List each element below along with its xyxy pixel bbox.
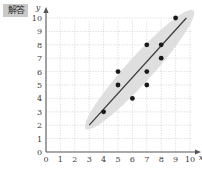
chart-svg: 012345678910 012345678910 xy	[0, 0, 202, 173]
y-tick-label: 5	[37, 81, 42, 90]
y-tick-label: 10	[32, 14, 42, 23]
y-tick-label: 8	[37, 41, 42, 50]
y-tick-label: 0	[37, 148, 42, 157]
x-tick-label: 2	[72, 155, 77, 164]
x-axis-label: x	[199, 153, 202, 162]
y-tick-label: 9	[37, 27, 42, 36]
data-point	[159, 56, 164, 61]
x-tick-label: 1	[58, 155, 63, 164]
data-point	[116, 69, 121, 74]
x-tick-label: 5	[115, 155, 120, 164]
x-tick-label: 4	[101, 155, 106, 164]
data-point	[130, 96, 135, 101]
y-tick-label: 1	[37, 135, 42, 144]
data-point	[101, 109, 106, 114]
x-tick-label: 3	[87, 155, 92, 164]
data-point	[173, 16, 178, 21]
data-point	[144, 42, 149, 47]
scatter-chart-figure: 012345678910 012345678910 xy	[0, 0, 202, 173]
data-point	[144, 83, 149, 88]
data-point	[116, 83, 121, 88]
x-tick-label: 10	[185, 155, 195, 164]
x-tick-label: 8	[159, 155, 164, 164]
x-tick-label: 9	[173, 155, 178, 164]
data-point	[159, 42, 164, 47]
x-tick-label: 0	[43, 155, 48, 164]
x-axis-tick-labels: 012345678910	[43, 155, 195, 164]
data-point	[144, 69, 149, 74]
y-tick-label: 4	[37, 94, 42, 103]
x-tick-label: 7	[144, 155, 149, 164]
chart-root: 解答 012345678910 012345678910 xy	[0, 0, 202, 173]
y-tick-label: 7	[37, 54, 42, 63]
x-tick-label: 6	[130, 155, 135, 164]
y-axis-tick-labels: 012345678910	[32, 14, 42, 157]
y-tick-label: 3	[37, 108, 42, 117]
y-axis-label: y	[35, 3, 41, 12]
y-tick-label: 6	[37, 68, 42, 77]
y-tick-label: 2	[37, 121, 42, 130]
